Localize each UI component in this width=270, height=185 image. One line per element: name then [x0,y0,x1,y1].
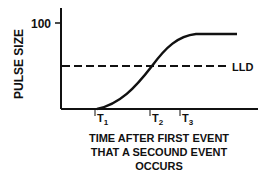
x-tick-label-t2: T2 [152,112,164,127]
chart-svg: 100 PULSE SIZE T1 T2 T3 LLD TIME AFTER F… [0,0,270,185]
y-axis-label: PULSE SIZE [12,29,26,99]
x-axis-label-line-1: TIME AFTER FIRST EVENT [89,132,229,144]
x-tick-label-t1: T1 [97,112,109,127]
pulse-size-curve [97,34,237,109]
x-axis-label-line-2: THAT A SECOUND EVENT [91,146,228,158]
x-tick-label-t3: T3 [182,112,194,127]
lld-label: LLD [232,61,253,73]
x-axis-label-line-3: OCCURS [135,160,183,172]
y-tick-label-100: 100 [31,17,51,31]
